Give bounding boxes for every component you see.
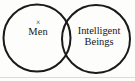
venn-diagram-figure: × Men Intelligent Beings [0, 0, 135, 81]
venn-label-men-text: Men [10, 27, 66, 38]
scan-artifact-rule [0, 77, 135, 78]
venn-label-intelligent-beings: Intelligent Beings [66, 26, 132, 47]
venn-circle-men [4, 5, 71, 72]
venn-label-intelligent-beings-line2: Beings [66, 37, 132, 48]
venn-label-men: × Men [10, 19, 66, 37]
